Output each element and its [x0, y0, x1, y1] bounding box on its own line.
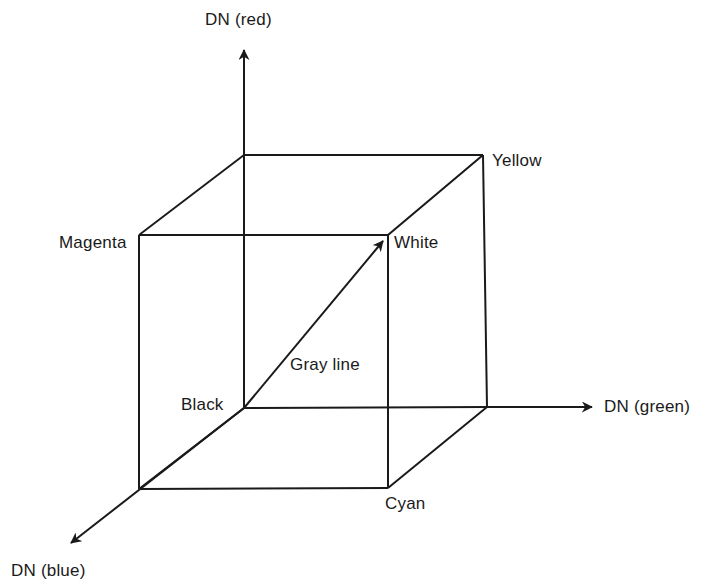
axis-blue-line	[71, 408, 244, 543]
rgb-color-cube-figure: DN (red) DN (green) DN (blue) Magenta Ye…	[0, 0, 710, 586]
cube-edge-top-right-back	[388, 155, 483, 235]
cube-drawing	[0, 0, 710, 586]
cube-edge-vertical-back-right	[483, 155, 487, 407]
vertex-label-white: White	[394, 233, 438, 252]
cube-edge-bottom-back	[244, 407, 487, 408]
gray-line-arrow	[244, 241, 383, 408]
axis-label-red: DN (red)	[205, 10, 272, 29]
vertex-label-black: Black	[181, 395, 224, 414]
axis-label-green: DN (green)	[604, 397, 690, 416]
vertex-label-magenta: Magenta	[59, 233, 127, 252]
cube-edge-bottom-right-back	[388, 407, 487, 488]
axis-label-blue: DN (blue)	[11, 561, 86, 580]
vertex-label-yellow: Yellow	[492, 151, 542, 170]
gray-line-label: Gray line	[290, 355, 360, 374]
vertex-label-cyan: Cyan	[385, 494, 426, 513]
cube-edge-bottom-front	[139, 488, 388, 489]
cube-edge-top-left-back	[139, 155, 244, 235]
